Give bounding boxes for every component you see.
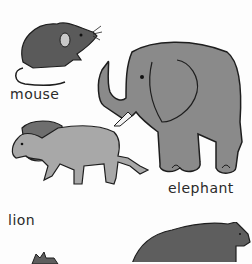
lion-illustration — [2, 118, 152, 198]
bear-illustration — [132, 222, 252, 262]
partial-animal-illustration — [30, 250, 60, 264]
elephant-label: elephant — [168, 180, 234, 196]
lion-label: lion — [8, 212, 35, 228]
mouse-label: mouse — [10, 86, 59, 102]
mouse-illustration — [5, 10, 105, 90]
